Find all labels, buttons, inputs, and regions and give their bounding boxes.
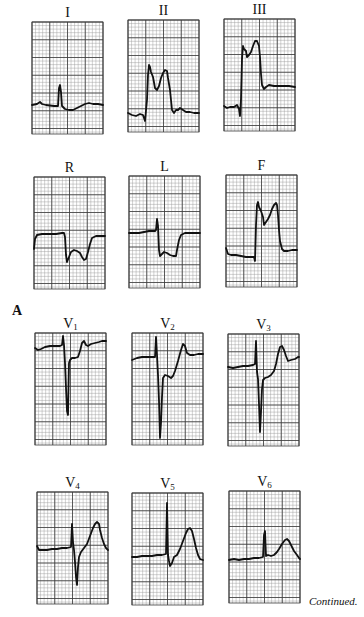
figure-panel-letter: A (12, 303, 22, 319)
lead-subscript: 6 (267, 480, 272, 490)
lead-name: F (258, 158, 266, 173)
ecg-grid (35, 333, 106, 445)
ecg-lead-iii: III (224, 19, 295, 131)
ecg-lead-l: L (129, 176, 200, 288)
ecg-grid (128, 20, 199, 132)
lead-subscript: 1 (73, 322, 78, 332)
lead-label: L (129, 160, 200, 174)
lead-label: F (226, 159, 297, 173)
lead-name: II (159, 3, 168, 18)
lead-subscript: 4 (75, 481, 80, 491)
ecg-grid (129, 176, 200, 288)
lead-label: V1 (35, 317, 106, 334)
ecg-grid (132, 493, 203, 605)
lead-label: R (34, 161, 105, 175)
lead-name: V (160, 476, 170, 491)
ecg-lead-v5: V5 (132, 493, 203, 605)
lead-subscript: 2 (170, 322, 175, 332)
continued-note: Continued. (309, 595, 358, 607)
lead-label: V3 (228, 318, 299, 335)
ecg-lead-v3: V3 (228, 334, 299, 446)
lead-name: V (257, 474, 267, 489)
ecg-lead-v4: V4 (37, 492, 108, 604)
lead-name: V (256, 317, 266, 332)
lead-label: V5 (132, 477, 203, 494)
lead-name: V (65, 475, 75, 490)
ecg-lead-ii: II (128, 20, 199, 132)
lead-name: L (160, 159, 169, 174)
ecg-grid (224, 19, 295, 131)
lead-label: I (32, 6, 103, 20)
lead-label: III (224, 3, 295, 17)
lead-name: I (65, 5, 70, 20)
ecg-grid (132, 333, 203, 445)
ecg-lead-r: R (34, 177, 105, 289)
lead-name: V (160, 316, 170, 331)
ecg-grid (226, 175, 297, 287)
ecg-lead-v6: V6 (229, 491, 300, 603)
lead-label: V6 (229, 475, 300, 492)
lead-name: III (253, 2, 267, 17)
lead-subscript: 3 (266, 323, 271, 333)
lead-name: V (63, 316, 73, 331)
ecg-lead-i: I (32, 22, 103, 134)
ecg-lead-v1: V1 (35, 333, 106, 445)
lead-label: II (128, 4, 199, 18)
ecg-grid (229, 491, 300, 603)
ecg-grid (32, 22, 103, 134)
lead-label: V2 (132, 317, 203, 334)
ecg-lead-v2: V2 (132, 333, 203, 445)
ecg-grid (37, 492, 108, 604)
ecg-grid (228, 334, 299, 446)
lead-label: V4 (37, 476, 108, 493)
ecg-lead-f: F (226, 175, 297, 287)
lead-subscript: 5 (170, 482, 175, 492)
lead-name: R (65, 160, 74, 175)
ecg-grid (34, 177, 105, 289)
